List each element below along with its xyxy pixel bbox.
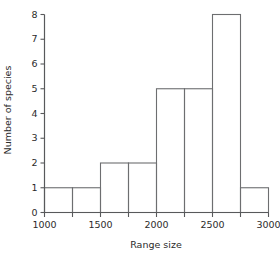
x-axis-tick-label: 1500 [88, 219, 112, 230]
histogram-chart: 10001500200025003000 012345678 Range siz… [0, 0, 280, 255]
y-axis-tick-label: 5 [31, 83, 37, 94]
y-axis-tick-label: 1 [31, 182, 37, 193]
x-axis-tick-label: 2000 [144, 219, 168, 230]
y-axis-title: Number of species [2, 66, 13, 155]
x-axis-tick-label: 2500 [200, 219, 224, 230]
y-axis-tick-label: 7 [31, 33, 37, 44]
x-axis-title: Range size [130, 239, 182, 250]
y-axis-tick-labels: 012345678 [31, 9, 37, 218]
y-axis-tick-label: 2 [31, 157, 37, 168]
x-axis-tick-label: 1000 [32, 219, 56, 230]
y-axis-tick-label: 8 [31, 9, 37, 20]
y-axis-tick-label: 0 [31, 207, 37, 218]
chart-canvas: 10001500200025003000 012345678 Range siz… [0, 0, 280, 255]
y-axis-tick-label: 4 [31, 108, 37, 119]
chart-background [0, 0, 280, 255]
y-axis-tick-label: 3 [31, 132, 37, 143]
y-axis-tick-label: 6 [31, 58, 37, 69]
x-axis-tick-label: 3000 [256, 219, 280, 230]
